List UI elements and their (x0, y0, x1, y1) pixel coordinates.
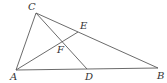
point-label-A: A (9, 71, 17, 82)
point-label-E: E (79, 20, 88, 31)
point-label-B: B (156, 70, 164, 81)
point-label-F: F (56, 44, 65, 55)
point-label-C: C (28, 1, 36, 12)
segment-AE (16, 32, 78, 70)
segment-CB (36, 13, 158, 68)
point-label-D: D (84, 71, 93, 82)
segment-AC (16, 13, 36, 70)
geometry-diagram: A B C D E F (0, 0, 167, 83)
